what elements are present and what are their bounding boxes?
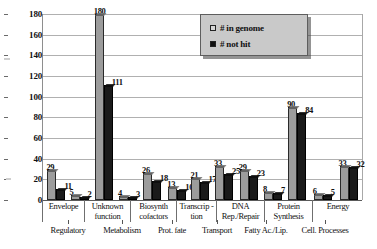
bar-wrapper: 18 [152,181,161,200]
x-axis-label-text: Cell. Processes [292,224,358,235]
bar-wrapper: 13 [168,187,177,200]
x-axis-tick-mark [325,220,326,224]
bar-wrapper: 180 [95,14,104,200]
bar-in-genome: 33 [340,166,349,200]
bar-not-hit: 84 [297,113,306,200]
bar-wrapper: 84 [297,113,306,200]
bar-value-label: 13 [167,180,175,188]
bar-wrapper: 8 [264,192,273,200]
x-axis-label: Envelope [42,200,84,222]
bar-wrapper: 10 [177,190,186,200]
x-axis-tick-mark [122,220,123,224]
x-axis-tick-mark [217,220,218,224]
scan-artifact [4,58,10,60]
bar-not-hit: 32 [349,167,358,200]
y-axis-tick-label: 20 [8,175,42,184]
x-axis-label: Transcrip - tion [176,200,216,222]
bar-value-label: 5 [70,188,74,196]
x-axis-label-text: Unknown function [85,200,130,221]
bar-value-label: 180 [94,7,106,15]
y-axis-tick-mark [4,117,8,118]
x-axis-label: Biosynth cofactors [130,200,176,222]
bar-wrapper: 33 [215,166,224,200]
x-axis-label: Prot. fate [150,224,194,237]
y-axis-tick-mark [4,97,8,98]
bar-wrapper: 111 [104,85,113,200]
y-axis-tick-mark [4,35,8,36]
bar-wrapper: 17 [200,182,209,200]
x-axis-row-bottom: RegulatoryMetabolismProt. fateTransportF… [42,224,363,237]
x-axis-tick-mark [266,220,267,224]
bar-group: 43 [118,14,138,200]
x-axis-tick-mark [172,220,173,224]
y-axis-tick-mark [4,76,8,77]
bar-wrapper: 90 [288,107,297,200]
y-axis-tick-label: 100 [8,93,42,102]
bar-in-genome: 29 [240,170,249,200]
x-axis-label: Cell. Processes [292,224,358,237]
bar-group: 180111 [89,14,118,200]
bar-group: 65 [311,14,336,200]
bar-wrapper: 25 [224,174,233,200]
legend-item-nothit: # not hit [210,36,307,52]
y-axis-tick-mark [4,200,8,201]
legend-label-genome: # in genome [220,23,264,33]
x-axis-label-text: Prot. fate [150,224,194,235]
bar-wrapper: 11 [56,189,65,200]
bar-value-label: 26 [142,166,150,174]
bar-group: 3332 [335,14,362,200]
bar-value-label: 6 [313,187,317,195]
bar-in-genome: 13 [168,187,177,200]
x-axis-label: DNA Rep./Repair [216,200,264,222]
bar-value-label: 32 [357,160,365,168]
x-axis-row-top: EnvelopeUnknown functionBiosynth cofacto… [42,200,363,222]
x-axis-label-text: Protein Synthesis [265,200,312,221]
x-axis-tick-mark [68,220,69,224]
bar-wrapper: 7 [273,193,282,200]
y-axis-tick-label: 80 [8,113,42,122]
bar-wrapper: 29 [47,170,56,200]
bar-value-label: 4 [118,189,122,197]
bar-group: 2618 [138,14,167,200]
x-axis-label: Regulatory [42,224,94,237]
bar-wrapper: 32 [349,167,358,200]
bar-in-genome: 180 [95,14,104,200]
bar-not-hit: 25 [224,174,233,200]
bar-value-label: 29 [46,163,54,171]
bar-not-hit: 23 [249,176,258,200]
x-axis-label-text: Fatty Ac./Lip. [240,224,292,235]
bar-wrapper: 26 [143,173,152,200]
x-axis-label-text: Envelope [43,200,84,211]
x-axis-label: Energy [312,200,363,222]
legend-item-genome: # in genome [210,20,307,36]
bar-not-hit: 18 [152,181,161,200]
x-axis-label-text: Metabolism [94,224,150,235]
bar-group: 1310 [166,14,188,200]
bar-in-genome: 29 [47,170,56,200]
x-axis-label-text: Energy [313,200,363,211]
bar-value-label: 8 [263,185,267,193]
x-axis-label-text: DNA Rep./Repair [217,200,264,221]
y-axis-tick-label: 0 [8,196,42,205]
y-axis-tick-mark [4,138,8,139]
bar-in-genome: 33 [215,166,224,200]
bar-value-label: 29 [239,163,247,171]
y-axis-tick-label: 160 [8,31,42,40]
bar-not-hit: 7 [273,193,282,200]
bar-value-label: 33 [214,159,222,167]
y-axis-tick-mark [4,159,8,160]
bar-value-label: 90 [287,100,295,108]
x-axis-label-text: Transcrip - tion [177,200,216,221]
bar-chart: 2911521801114326181310211733252923879084… [0,0,377,249]
x-axis-label: Protein Synthesis [264,200,312,222]
chart-legend: # in genome # not hit [200,14,308,56]
bar-in-genome: 90 [288,107,297,200]
legend-swatch-genome-icon [210,25,216,31]
x-axis-label: Fatty Ac./Lip. [240,224,292,237]
x-axis-label-text: Regulatory [42,224,94,235]
bar-group: 52 [70,14,90,200]
y-axis-tick-label: 140 [8,51,42,60]
y-axis-tick-label: 60 [8,134,42,143]
y-axis-tick-label: 180 [8,10,42,19]
bar-not-hit: 17 [200,182,209,200]
